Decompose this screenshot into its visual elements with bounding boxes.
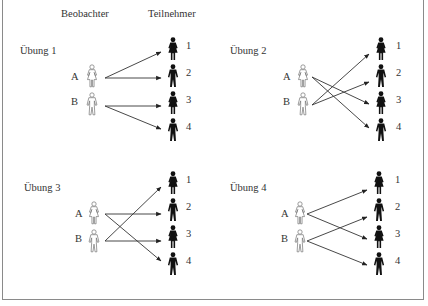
svg-text:3: 3 <box>396 94 401 105</box>
woman-filled-icon <box>168 171 177 194</box>
svg-text:4: 4 <box>396 121 402 132</box>
observer-label-b: B <box>71 96 78 107</box>
assignment-arrows <box>312 54 369 128</box>
woman-outline-icon <box>299 65 308 87</box>
man-filled-icon <box>168 198 178 221</box>
svg-text:A: A <box>283 71 291 82</box>
participant-label-4: 4 <box>186 121 192 132</box>
assignment-arrows <box>105 187 161 261</box>
man-outline-icon <box>87 93 97 115</box>
woman-filled-icon <box>374 225 383 248</box>
svg-text:A: A <box>75 208 83 219</box>
man-outline-icon <box>298 93 308 115</box>
diagram-canvas: A B 1 2 3 4 A B 1 2 3 4 <box>0 0 428 306</box>
svg-text:B: B <box>281 233 288 244</box>
woman-outline-icon <box>296 202 305 224</box>
woman-outline-icon <box>88 65 97 87</box>
assignment-arrows <box>105 52 161 129</box>
svg-text:3: 3 <box>186 228 191 239</box>
observer-label-a: A <box>71 71 79 82</box>
exercise-panel-2: A B 1 2 3 4 <box>283 37 402 141</box>
participant-label-2: 2 <box>186 67 191 78</box>
woman-filled-icon <box>376 91 385 114</box>
woman-outline-icon <box>90 202 99 224</box>
woman-filled-icon <box>168 225 177 248</box>
svg-text:B: B <box>75 233 82 244</box>
participant-label-1: 1 <box>186 40 191 51</box>
svg-text:3: 3 <box>395 228 400 239</box>
svg-text:4: 4 <box>395 255 401 266</box>
man-filled-icon <box>376 118 386 141</box>
assignment-arrows <box>307 190 367 265</box>
exercise-panel-1: A B 1 2 3 4 <box>71 37 192 141</box>
man-outline-icon <box>295 230 305 252</box>
svg-text:2: 2 <box>396 67 401 78</box>
woman-filled-icon <box>376 37 385 60</box>
woman-filled-icon <box>168 91 177 114</box>
svg-text:A: A <box>281 208 289 219</box>
svg-text:2: 2 <box>186 201 191 212</box>
exercise-panel-3: A B 1 2 3 4 <box>75 171 192 275</box>
man-filled-icon <box>374 252 384 275</box>
exercise-panel-4: A B 1 2 3 4 <box>281 171 401 275</box>
man-filled-icon <box>168 64 178 87</box>
svg-text:4: 4 <box>186 255 192 266</box>
svg-text:1: 1 <box>186 174 191 185</box>
woman-filled-icon <box>374 171 383 194</box>
man-filled-icon <box>168 118 178 141</box>
man-filled-icon <box>374 198 384 221</box>
participant-label-3: 3 <box>186 94 191 105</box>
woman-filled-icon <box>168 37 177 60</box>
svg-text:B: B <box>283 96 290 107</box>
man-filled-icon <box>168 252 178 275</box>
man-outline-icon <box>89 230 99 252</box>
svg-text:1: 1 <box>396 40 401 51</box>
man-filled-icon <box>376 64 386 87</box>
svg-text:1: 1 <box>395 174 400 185</box>
svg-text:2: 2 <box>395 201 400 212</box>
